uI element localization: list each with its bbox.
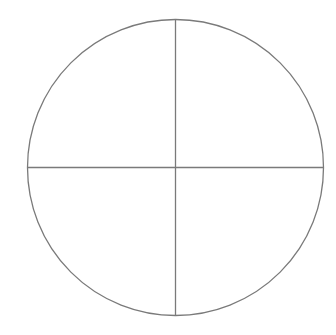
quartered-circle-diagram (0, 0, 336, 335)
